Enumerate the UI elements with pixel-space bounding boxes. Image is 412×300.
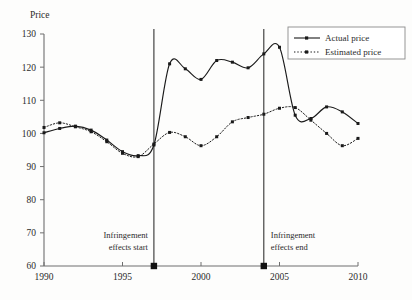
data-point-marker: [294, 114, 297, 117]
chart-svg: 60708090100110120130 1990199520002005201…: [0, 0, 412, 300]
data-point-marker: [184, 135, 187, 138]
data-point-marker: [309, 119, 312, 122]
data-point-marker: [152, 143, 155, 146]
annotation-line2: effects start: [109, 242, 149, 252]
y-tick-label: 110: [22, 96, 36, 106]
data-point-marker: [294, 106, 297, 109]
data-point-marker: [121, 152, 124, 155]
x-axis-ticks: 19901995200020052010: [35, 262, 368, 282]
annotation-line1: Infringement: [104, 230, 149, 240]
data-point-marker: [341, 144, 344, 147]
legend-label: Estimated price: [325, 47, 381, 57]
legend-label: Actual price: [325, 33, 369, 43]
data-point-marker: [215, 135, 218, 138]
data-point-marker: [90, 130, 93, 133]
data-point-marker: [43, 126, 46, 129]
x-tick-label: 1990: [35, 272, 54, 282]
annotations-group: Infringementeffects startInfringementeff…: [104, 230, 316, 252]
data-point-marker: [105, 140, 108, 143]
price-chart: 60708090100110120130 1990199520002005201…: [0, 0, 412, 300]
y-tick-label: 60: [27, 261, 37, 271]
y-tick-label: 130: [22, 29, 37, 39]
x-tick-label: 2010: [349, 272, 368, 282]
legend-marker-icon: [305, 36, 308, 39]
data-point-marker: [357, 122, 360, 125]
data-point-marker: [262, 52, 265, 55]
x-tick-label: 2005: [270, 272, 289, 282]
y-tick-label: 70: [27, 228, 37, 238]
data-point-marker: [247, 116, 250, 119]
data-point-marker: [341, 110, 344, 113]
series-estimated-price: [43, 106, 360, 158]
annotation-line1: Infringement: [271, 230, 316, 240]
data-point-marker: [58, 127, 61, 130]
infringement-start-marker: [151, 263, 157, 269]
data-point-marker: [325, 132, 328, 135]
data-point-marker: [325, 105, 328, 108]
series-line: [44, 43, 358, 155]
data-point-marker: [200, 144, 203, 147]
data-point-marker: [278, 46, 281, 49]
infringement-end-marker: [261, 263, 267, 269]
y-tick-label: 120: [22, 63, 37, 73]
y-axis-ticks: 60708090100110120130: [22, 29, 44, 271]
series-actual-price: [43, 43, 360, 157]
annotation-line2: effects end: [271, 242, 309, 252]
data-point-marker: [215, 59, 218, 62]
data-point-marker: [231, 61, 234, 64]
x-tick-label: 2000: [192, 272, 211, 282]
data-point-marker: [357, 137, 360, 140]
data-point-marker: [43, 131, 46, 134]
y-tick-label: 80: [27, 195, 37, 205]
y-tick-label: 90: [27, 162, 37, 172]
data-point-marker: [58, 121, 61, 124]
legend-marker-icon: [305, 50, 308, 53]
data-point-marker: [278, 107, 281, 110]
data-point-marker: [168, 131, 171, 134]
series-layer: [43, 43, 360, 158]
data-point-marker: [200, 78, 203, 81]
data-point-marker: [247, 66, 250, 69]
data-point-marker: [184, 67, 187, 70]
data-point-marker: [262, 113, 265, 116]
data-point-marker: [168, 62, 171, 65]
data-point-marker: [137, 155, 140, 158]
legend[interactable]: Actual priceEstimated price: [288, 27, 405, 59]
x-tick-label: 1995: [113, 272, 132, 282]
y-axis-title: Price: [30, 10, 50, 20]
y-tick-label: 100: [22, 129, 37, 139]
data-point-marker: [74, 125, 77, 128]
data-point-marker: [231, 120, 234, 123]
